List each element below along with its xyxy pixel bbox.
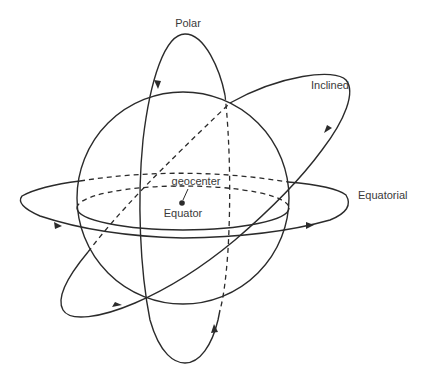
arrow-icon <box>306 222 314 229</box>
arrow-icon <box>54 222 62 229</box>
label-equatorial: Equatorial <box>358 189 408 201</box>
orbit-diagram: Polar Inclined Equatorial geocenter Equa… <box>0 0 424 384</box>
label-equator: Equator <box>164 207 203 219</box>
polar-orbit <box>140 34 230 363</box>
arrow-icon <box>112 302 122 307</box>
arrow-icon <box>324 125 332 133</box>
label-polar: Polar <box>175 17 201 29</box>
label-geocenter: geocenter <box>172 175 221 187</box>
arrow-icon <box>154 80 161 89</box>
geocenter-dot <box>179 200 185 206</box>
earth-sphere <box>77 92 289 304</box>
inclined-orbit <box>61 74 350 317</box>
label-inclined: Inclined <box>311 79 349 91</box>
geocenter-leader <box>183 189 188 200</box>
